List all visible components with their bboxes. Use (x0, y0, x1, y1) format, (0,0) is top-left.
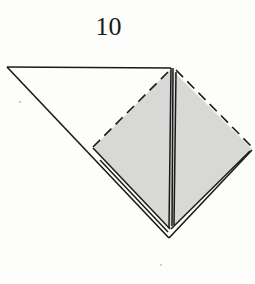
origami-diagram (0, 0, 255, 284)
speck-mark (19, 101, 21, 103)
speck-mark (160, 264, 162, 266)
